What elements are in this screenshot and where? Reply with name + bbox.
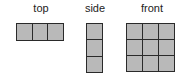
cell bbox=[127, 40, 142, 55]
cell bbox=[127, 24, 142, 39]
cell bbox=[143, 56, 158, 71]
cell bbox=[159, 24, 174, 39]
cell bbox=[33, 24, 48, 40]
cell bbox=[159, 56, 174, 71]
cell bbox=[17, 24, 32, 40]
label-front: front bbox=[135, 2, 169, 15]
cell bbox=[48, 24, 63, 40]
side-view-grid bbox=[86, 23, 103, 73]
cell bbox=[159, 40, 174, 55]
cell bbox=[87, 40, 102, 55]
label-side: side bbox=[80, 2, 110, 15]
cell bbox=[143, 40, 158, 55]
label-top: top bbox=[26, 2, 56, 15]
front-view-grid bbox=[126, 23, 175, 72]
cell bbox=[143, 24, 158, 39]
top-view-grid bbox=[16, 23, 64, 41]
cell bbox=[87, 24, 102, 39]
cell bbox=[87, 57, 102, 72]
cell bbox=[127, 56, 142, 71]
